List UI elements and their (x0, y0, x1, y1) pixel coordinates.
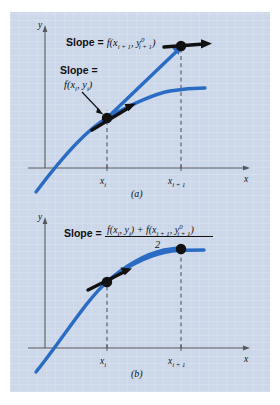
panel-b-x-axis-label: x (243, 354, 249, 364)
svg-text:f(xi, yi): f(xi, yi) (64, 79, 93, 92)
panel-a-ticklabel-xi: xi (99, 176, 106, 188)
panel-a-tangent-xip1 (164, 39, 212, 48)
svg-text:Slope =f(xi + 1, y0i + 1): Slope =f(xi + 1, y0i + 1) (66, 36, 156, 50)
svg-text:Slope =: Slope = (60, 64, 98, 76)
panel-b-point-xip1-corrected (176, 244, 186, 254)
panel-b: y x xi xi + 1 Slope = f( (28, 212, 250, 372)
panel-a-tangent-xi (92, 103, 136, 130)
panel-b-ticklabel-xi: xi (99, 356, 106, 368)
panel-a-y-axis (43, 25, 48, 168)
panel-a-annotation-slope-predictor: Slope =f(xi + 1, y0i + 1) (66, 36, 156, 50)
panel-b-solution-curve (36, 250, 204, 372)
panel-a: y x xi xi + 1 (28, 20, 250, 192)
panel-b-y-axis (43, 217, 48, 348)
panel-a-predictor-line (107, 50, 178, 118)
panel-a-x-axis-label: x (243, 174, 249, 184)
figure-canvas: y x xi xi + 1 (0, 0, 280, 405)
panel-b-formula-denominator: 2 (155, 239, 161, 250)
svg-text:Slope =: Slope = (64, 227, 102, 239)
panel-b-ticklabel-xip1: xi + 1 (167, 356, 186, 368)
panel-a-x-axis (28, 166, 250, 171)
panel-b-y-axis-label: y (37, 212, 43, 222)
panel-b-corrector-curve (107, 248, 182, 282)
panel-b-label: (b) (131, 368, 143, 380)
panel-a-point-xip1-y0ip1 (176, 41, 186, 51)
panel-a-ticklabel-xip1: xi + 1 (167, 176, 186, 188)
panel-b-annotation-slope-average: Slope = f(xi, yi) + f(xi + 1, y0i + 1) 2 (64, 223, 213, 250)
panel-a-label: (a) (131, 188, 143, 200)
panel-a-point-xi-yi (102, 113, 112, 123)
panel-b-point-xi-yi (102, 277, 112, 287)
panel-a-y-axis-label: y (37, 20, 43, 30)
figure-root: y x xi xi + 1 (0, 0, 280, 405)
panel-a-annotation-slope-initial: Slope = f(xi, yi) (60, 64, 104, 115)
panel-b-formula-numerator: f(xi, yi) + f(xi + 1, y0i + 1) (107, 223, 195, 237)
panel-b-x-axis (28, 346, 250, 351)
